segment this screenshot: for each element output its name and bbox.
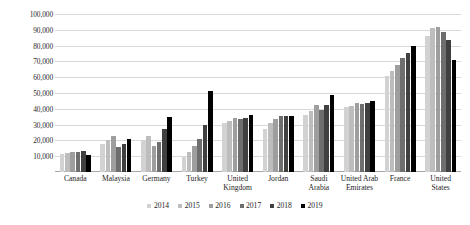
bar	[365, 103, 370, 172]
bar-group	[420, 14, 461, 172]
y-axis-tick-label: 20,000	[1, 136, 53, 145]
bar	[167, 117, 172, 172]
bar	[203, 125, 208, 172]
y-axis-tick-label: 10,000	[1, 152, 53, 161]
bar	[330, 95, 335, 172]
legend-label: 2015	[185, 201, 200, 210]
bar	[400, 58, 405, 172]
bar	[360, 104, 365, 172]
bar	[127, 139, 132, 172]
bar	[146, 136, 151, 172]
bar	[425, 36, 430, 172]
legend-label: 2016	[215, 201, 230, 210]
legend-swatch-icon	[240, 204, 244, 208]
bar	[162, 129, 167, 172]
bar	[441, 32, 446, 172]
legend-item[interactable]: 2019	[301, 201, 323, 210]
x-axis-label: United Kingdom	[217, 174, 258, 192]
bar	[122, 144, 127, 172]
x-axis-label: Canada	[55, 174, 96, 192]
bar	[395, 65, 400, 172]
y-axis-tick-label: 40,000	[1, 104, 53, 113]
legend-item[interactable]: 2017	[240, 201, 262, 210]
y-axis-tick-label: 100,000	[1, 10, 53, 19]
bar	[86, 155, 91, 172]
legend-swatch-icon	[301, 204, 305, 208]
bar	[70, 152, 75, 172]
bar	[430, 28, 435, 172]
legend-swatch-icon	[209, 204, 213, 208]
y-axis-tick-label: 70,000	[1, 57, 53, 66]
plot-area	[55, 14, 461, 172]
bar-groups	[55, 14, 461, 172]
bar	[349, 106, 354, 172]
bar	[309, 111, 314, 172]
bar	[65, 153, 70, 172]
bar	[303, 115, 308, 172]
legend-item[interactable]: 2016	[209, 201, 231, 210]
bar	[289, 116, 294, 172]
bar	[197, 139, 202, 172]
bar	[370, 101, 375, 172]
bar	[344, 107, 349, 172]
legend-swatch-icon	[147, 204, 151, 208]
bar-group	[299, 14, 340, 172]
bar	[100, 144, 105, 172]
bar	[187, 152, 192, 172]
bar	[152, 146, 157, 172]
x-axis-label: Jordan	[258, 174, 299, 192]
bar	[116, 147, 121, 172]
x-axis-label: United Arab Emirates	[339, 174, 380, 192]
bar-group	[380, 14, 421, 172]
bar	[208, 91, 213, 172]
y-axis: 100,00090,00080,00070,00060,00050,00040,…	[0, 14, 53, 172]
bar-group	[96, 14, 137, 172]
bar	[411, 46, 416, 172]
bar	[111, 136, 116, 172]
bar-group	[55, 14, 96, 172]
bar	[314, 105, 319, 172]
bar-group	[136, 14, 177, 172]
legend-label: 2018	[277, 201, 292, 210]
bar	[243, 118, 248, 172]
bar	[324, 105, 329, 172]
x-axis-label: United States	[420, 174, 461, 192]
legend-label: 2014	[154, 201, 169, 210]
y-axis-tick-label: 80,000	[1, 41, 53, 50]
bar	[238, 119, 243, 172]
bar	[385, 76, 390, 172]
bar	[452, 60, 457, 172]
y-axis-tick-label: 30,000	[1, 120, 53, 129]
bar	[222, 123, 227, 172]
bar	[319, 110, 324, 172]
bar	[355, 103, 360, 172]
bar-group	[258, 14, 299, 172]
bar	[60, 154, 65, 172]
legend-item[interactable]: 2014	[147, 201, 169, 210]
bar	[273, 119, 278, 172]
chart-legend: 201420152016201720182019	[0, 201, 470, 210]
bar	[446, 40, 451, 172]
legend-item[interactable]: 2018	[270, 201, 292, 210]
legend-item[interactable]: 2015	[178, 201, 200, 210]
y-axis-tick-label: 50,000	[1, 89, 53, 98]
bar	[227, 121, 232, 172]
legend-label: 2019	[307, 201, 322, 210]
bar-group	[217, 14, 258, 172]
bar	[249, 115, 254, 172]
bar	[157, 142, 162, 172]
legend-swatch-icon	[178, 204, 182, 208]
bar	[390, 71, 395, 172]
bar	[233, 118, 238, 172]
bar	[106, 140, 111, 172]
bar	[284, 116, 289, 172]
bar	[406, 53, 411, 172]
x-axis-label: Malaysia	[96, 174, 137, 192]
bar	[436, 27, 441, 172]
y-axis-tick-label: 90,000	[1, 25, 53, 34]
bar	[268, 123, 273, 172]
bar-chart: 100,00090,00080,00070,00060,00050,00040,…	[0, 0, 470, 225]
y-axis-tick-label: 60,000	[1, 73, 53, 82]
bar	[279, 116, 284, 172]
bar-group	[339, 14, 380, 172]
